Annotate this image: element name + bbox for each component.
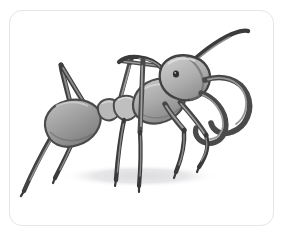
tarsal-claw-1 xyxy=(21,191,24,196)
tarsal-claw-3 xyxy=(115,180,116,186)
leg-mid-right-tarsus-highlight xyxy=(140,136,141,176)
leg-mid-right-upper-highlight xyxy=(141,66,142,126)
gaster xyxy=(45,100,101,147)
eye-icon xyxy=(173,70,179,77)
screenshot-canvas: Grayscale pencil illustration of an ant … xyxy=(0,0,285,238)
ant-illustration xyxy=(0,0,285,238)
